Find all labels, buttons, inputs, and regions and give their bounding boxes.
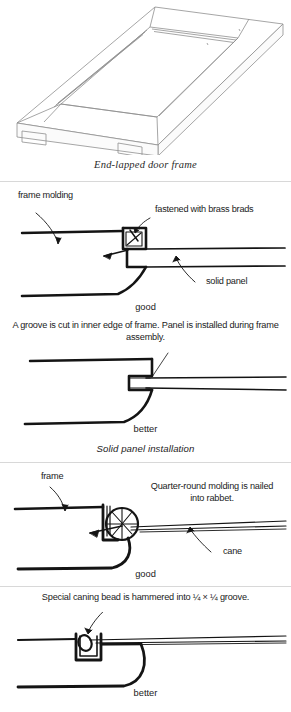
caption-solid-panel-good: good [0, 302, 291, 312]
section-title-solid-panel-installation: Solid panel installation [0, 443, 291, 454]
label-brass-brads: fastened with brass brads [155, 204, 253, 215]
label-quarter-round-molding: Quarter-round molding is nailed into rab… [143, 481, 281, 504]
figure-page: End-lapped door frame [0, 0, 291, 712]
label-cane: cane [223, 546, 242, 557]
caption-cane-panel-good: good [0, 569, 291, 579]
section-divider [0, 586, 291, 587]
note-caning-bead: Special caning bead is hammered into ¼ ×… [10, 592, 281, 604]
section-divider [0, 462, 291, 463]
caption-solid-panel-better: better [0, 424, 291, 434]
section-divider [0, 181, 291, 182]
label-frame-molding: frame molding [18, 190, 73, 201]
label-solid-panel: solid panel [206, 276, 247, 287]
figure-end-lapped-door-frame [0, 0, 291, 155]
label-frame: frame [41, 471, 63, 482]
note-groove-cut-in-frame: A groove is cut in inner edge of frame. … [10, 320, 281, 343]
caption-end-lapped-door-frame: End-lapped door frame [0, 159, 291, 170]
caption-cane-panel-better: better [0, 688, 291, 698]
